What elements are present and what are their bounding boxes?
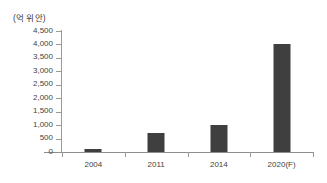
x-axis-tick-label: 2004 bbox=[62, 160, 125, 169]
y-axis-tick-label: 500 bbox=[40, 133, 53, 142]
bar-slot bbox=[188, 31, 251, 152]
bar-slot bbox=[125, 31, 188, 152]
y-axis-unit-label: (억 위안) bbox=[13, 11, 46, 23]
x-axis-tick-label: 2011 bbox=[125, 160, 188, 169]
y-axis-tick-label: 3,000 bbox=[33, 66, 53, 75]
x-axis-tick-mark bbox=[250, 152, 251, 157]
x-axis-tick-label: 2014 bbox=[188, 160, 251, 169]
bar bbox=[210, 125, 227, 152]
x-axis-tick-mark bbox=[125, 152, 126, 157]
x-axis-tick-label: 2020(F) bbox=[250, 160, 313, 169]
x-axis-tick-mark bbox=[188, 152, 189, 157]
bar-slot bbox=[62, 31, 125, 152]
y-axis-tick-label: 1,500 bbox=[33, 106, 53, 115]
bar bbox=[85, 149, 102, 152]
x-axis-tick-mark bbox=[62, 152, 63, 157]
y-axis-tick-label: 4,000 bbox=[33, 39, 53, 48]
bar bbox=[273, 44, 290, 152]
x-axis-line bbox=[44, 152, 313, 153]
y-axis-tick-label: 2,000 bbox=[33, 93, 53, 102]
bar-slot bbox=[250, 31, 313, 152]
bar-chart: (억 위안) 4,5004,0003,5003,0002,5002,0001,5… bbox=[0, 0, 327, 183]
y-axis-tick-label: 3,500 bbox=[33, 52, 53, 61]
y-axis-tick-label: 1,000 bbox=[33, 120, 53, 129]
bar bbox=[148, 133, 165, 152]
y-axis-tick-label: 4,500 bbox=[33, 26, 53, 35]
y-axis-tick-label: 0 bbox=[49, 147, 53, 156]
x-axis-tick-mark bbox=[313, 152, 314, 157]
y-axis-tick-label: 2,500 bbox=[33, 79, 53, 88]
